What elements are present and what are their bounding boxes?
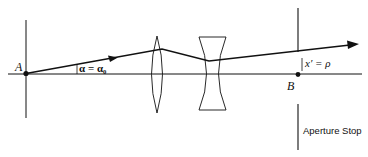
light-ray — [26, 45, 350, 74]
point-b — [296, 72, 301, 77]
label-a: A — [15, 61, 22, 73]
optical-diagram: A α = α₀ x′ = ρ B Aperture Stop — [0, 0, 368, 157]
angle-label: α = α₀ — [79, 63, 106, 74]
label-b: B — [287, 80, 294, 92]
ray-end-arrow-icon — [347, 41, 359, 50]
height-label: x′ = ρ — [305, 58, 331, 69]
aperture-stop-label: Aperture Stop — [303, 126, 362, 136]
